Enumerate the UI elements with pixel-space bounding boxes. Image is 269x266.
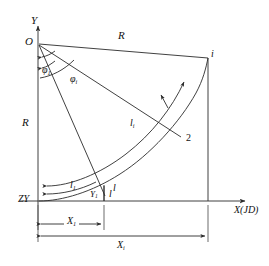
arc-l1-label: l1 [70, 180, 76, 191]
dim-xi-label: Xi [117, 240, 125, 251]
arc-length-li [47, 82, 184, 186]
curve-geometry-svg [0, 0, 269, 266]
point-zy-label: ZY [18, 194, 29, 204]
point-i-label: i [211, 49, 214, 59]
y-axis-label: Y [31, 15, 37, 26]
main-curve-arc [39, 58, 208, 201]
angle-phi-1-label: φ1 [42, 65, 51, 76]
ordinate-y1-label: Y1 [90, 190, 98, 200]
radius-chord-top [39, 44, 208, 58]
radius-line-2 [39, 45, 181, 137]
angle-phi-i-label: φi [70, 74, 77, 85]
point-origin-label: O [25, 36, 33, 47]
radius-axis-label: R [22, 117, 29, 128]
arc-l-label: l [109, 189, 112, 200]
x-axis-label: X(JD) [234, 205, 258, 215]
point-2-label: 2 [186, 133, 191, 143]
point-1-label: l [113, 183, 116, 193]
radius-chord-label: R [118, 30, 125, 41]
curve-direction-arrow [161, 95, 168, 108]
diagram-canvas: Y X(JD) O ZY l 2 i R R φ1 φi l1 li l Y1 … [0, 0, 269, 266]
dim-x1-label: X1 [64, 216, 79, 227]
arc-li-label: li [130, 118, 135, 129]
